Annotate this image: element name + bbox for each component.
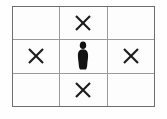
x-mark-icon <box>73 13 93 33</box>
diagram-canvas <box>0 0 167 119</box>
grid-cell-r1c2[interactable] <box>60 7 106 39</box>
grid-cell-r1c3[interactable] <box>108 7 154 39</box>
grid-cell-r3c2[interactable] <box>60 74 106 106</box>
grid-cell-r1c1[interactable] <box>13 7 59 39</box>
x-mark-icon <box>121 46 141 66</box>
x-mark-icon <box>26 46 46 66</box>
grid-cell-r3c3[interactable] <box>108 74 154 106</box>
grid-cell-r2c3[interactable] <box>108 40 154 72</box>
person-silhouette-icon <box>75 41 91 71</box>
grid-cell-r3c1[interactable] <box>13 74 59 106</box>
grid-cell-r2c2[interactable] <box>60 40 106 72</box>
x-mark-icon <box>73 80 93 100</box>
grid-cell-r2c1[interactable] <box>13 40 59 72</box>
three-by-three-grid <box>12 6 155 107</box>
